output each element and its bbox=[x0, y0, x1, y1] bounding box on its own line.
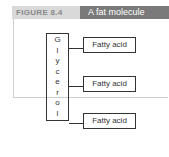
figure-number: FIGURE 8.4 bbox=[12, 6, 80, 19]
glycerol-letter: l bbox=[57, 110, 59, 118]
fatty-acid-box: Fatty acid bbox=[83, 113, 136, 129]
bond-line bbox=[69, 123, 83, 124]
figure-header: FIGURE 8.4 A fat molecule bbox=[12, 6, 169, 19]
glycerol-letter: e bbox=[55, 78, 59, 86]
glycerol-letter: G bbox=[54, 36, 60, 44]
glycerol-letter: r bbox=[56, 89, 59, 97]
glycerol-box: G l y c e r o l bbox=[46, 33, 69, 121]
glycerol-letter: c bbox=[56, 68, 60, 76]
glycerol-letter: o bbox=[55, 99, 59, 107]
fatty-acid-box: Fatty acid bbox=[83, 37, 136, 53]
figure-title: A fat molecule bbox=[80, 6, 169, 19]
fatty-acid-box: Fatty acid bbox=[83, 76, 136, 92]
glycerol-letter: y bbox=[56, 57, 60, 65]
bond-line bbox=[69, 86, 83, 87]
bond-line bbox=[69, 48, 83, 49]
glycerol-letter: l bbox=[57, 47, 59, 55]
